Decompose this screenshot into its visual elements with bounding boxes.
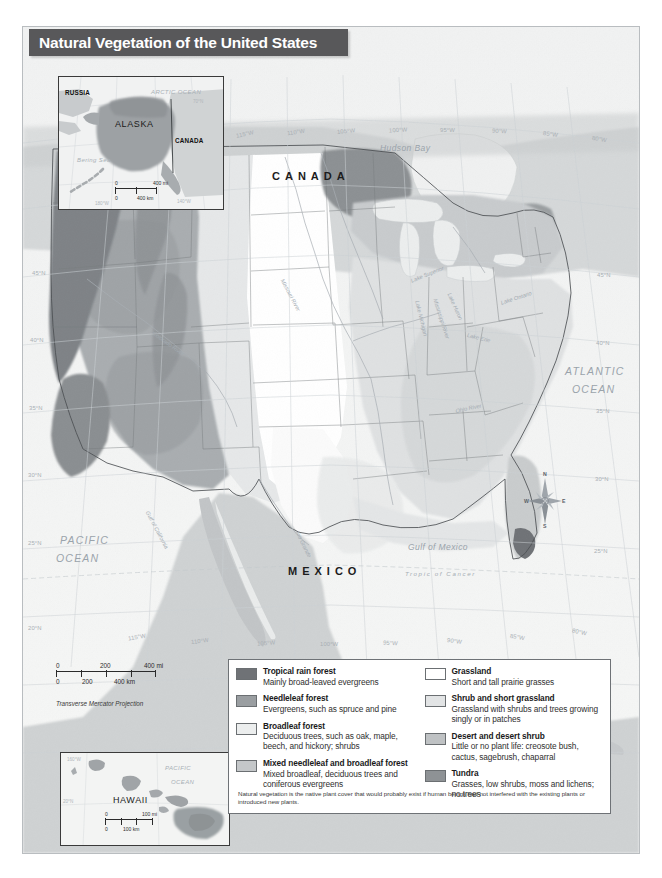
legend-item-desert-and-desert-shrub[interactable]: Desert and desert shrub Little or no pla… [425, 731, 604, 762]
legend-desc-tropical-rain-forest: Mainly broad-leaved evergreens [263, 677, 415, 687]
legend-swatch-tundra [425, 770, 446, 782]
main-scale-km-400: 400 km [114, 678, 135, 685]
inset-map-hawaii[interactable]: HAWAII PACIFIC OCEAN 160°W 20°N 0 100 mi… [60, 752, 230, 846]
legend-swatch-shrub-short-grassland [425, 695, 446, 707]
main-scale-bar: 0 200 400 mi 0 200 400 km [56, 662, 206, 687]
legend-title-broadleaf-forest: Broadleaf forest [263, 721, 415, 732]
legend-footnote: Natural vegetation is the native plant c… [238, 790, 601, 806]
legend-column-left: Tropical rain forest Mainly broad-leaved… [236, 666, 415, 806]
legend-item-shrub-short-grassland[interactable]: Shrub and short grassland Grassland with… [425, 693, 604, 724]
legend-column-right: Grassland Short and tall prairie grasses… [425, 666, 604, 806]
legend-title-tropical-rain-forest: Tropical rain forest [263, 666, 415, 677]
legend-swatch-tropical-rain-forest [236, 668, 257, 680]
legend-swatch-mixed-forest [236, 760, 257, 772]
hawaii-scale-km-0: 0 [105, 826, 108, 832]
hawaii-scale-mi-0: 0 [105, 811, 108, 817]
map-legend: Tropical rain forest Mainly broad-leaved… [228, 659, 611, 814]
legend-swatch-desert-and-desert-shrub [425, 733, 446, 745]
alaska-scale-bar: 0 400 mi 0 400 km [115, 180, 175, 203]
legend-desc-mixed-forest: Mixed broadleaf, deciduous trees and con… [263, 769, 415, 790]
legend-title-needleleaf-forest: Needleleaf forest [263, 693, 415, 704]
legend-desc-shrub-short-grassland: Grassland with shrubs and trees growing … [452, 704, 604, 725]
main-scale-km-200: 200 [82, 678, 93, 685]
legend-item-grassland[interactable]: Grassland Short and tall prairie grasses [425, 666, 604, 687]
legend-desc-broadleaf-forest: Deciduous trees, such as oak, maple, bee… [263, 731, 415, 752]
hawaii-scale-mi-100: 100 mi [142, 811, 157, 817]
inset-map-alaska[interactable]: RUSSIA ALASKA CANADA ARCTIC OCEAN Bering… [58, 76, 224, 210]
compass-rose-icon [524, 472, 566, 530]
legend-desc-needleleaf-forest: Evergreens, such as spruce and pine [263, 704, 415, 714]
hawaii-scale-bar: 0 100 mi 0 100 km [105, 811, 177, 834]
legend-title-mixed-forest: Mixed needleleaf and broadleaf forest [263, 758, 415, 769]
alaska-scale-mi-0: 0 [115, 180, 118, 186]
map-title-banner: Natural Vegetation of the United States [29, 29, 348, 56]
legend-desc-desert-and-desert-shrub: Little or no plant life: creosote bush, … [452, 741, 604, 762]
alaska-scale-km-400: 400 km [137, 195, 153, 201]
legend-swatch-needleleaf-forest [236, 695, 257, 707]
compass-west-label: W [524, 498, 529, 504]
compass-south-label: S [543, 523, 546, 529]
main-scale-mi-400: 400 mi [144, 662, 163, 669]
legend-desc-grassland: Short and tall prairie grasses [452, 677, 604, 687]
hawaii-scale-km-100: 100 km [123, 826, 139, 832]
legend-title-grassland: Grassland [452, 666, 604, 677]
main-scale-mi-200: 200 [100, 662, 111, 669]
compass-north-label: N [543, 471, 547, 477]
map-page: CANADA MEXICO PACIFIC OCEAN ATLANTIC OCE… [0, 0, 662, 878]
legend-title-shrub-short-grassland: Shrub and short grassland [452, 693, 604, 704]
main-scale-mi-0: 0 [56, 662, 60, 669]
legend-item-tropical-rain-forest[interactable]: Tropical rain forest Mainly broad-leaved… [236, 666, 415, 687]
main-scale-km-0: 0 [56, 678, 60, 685]
compass-rose: N S E W [524, 472, 566, 530]
legend-title-desert-and-desert-shrub: Desert and desert shrub [452, 731, 604, 742]
legend-item-broadleaf-forest[interactable]: Broadleaf forest Deciduous trees, such a… [236, 721, 415, 752]
page-title: Natural Vegetation of the United States [39, 34, 317, 52]
legend-swatch-broadleaf-forest [236, 723, 257, 735]
legend-title-tundra: Tundra [452, 768, 604, 779]
projection-note: Transverse Mercator Projection [56, 700, 143, 707]
alaska-scale-km-0: 0 [115, 195, 118, 201]
compass-east-label: E [562, 498, 565, 504]
legend-swatch-grassland [425, 668, 446, 680]
legend-item-needleleaf-forest[interactable]: Needleleaf forest Evergreens, such as sp… [236, 693, 415, 714]
legend-item-mixed-forest[interactable]: Mixed needleleaf and broadleaf forest Mi… [236, 758, 415, 789]
alaska-scale-mi-400: 400 mi [153, 180, 168, 186]
